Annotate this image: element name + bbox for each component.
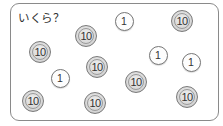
coin-1-yen: 1 <box>149 46 168 65</box>
coin-1-yen: 1 <box>115 12 134 31</box>
question-title: いくら？ <box>18 9 64 25</box>
coin-10-yen: 10 <box>176 86 198 108</box>
coin-value: 10 <box>27 95 38 107</box>
coin-10-yen: 10 <box>84 92 106 114</box>
coin-10-yen: 10 <box>22 90 44 112</box>
coin-value: 1 <box>155 49 161 61</box>
coin-10-yen: 10 <box>75 25 97 47</box>
coin-value: 10 <box>89 97 100 109</box>
coin-10-yen: 10 <box>29 41 51 63</box>
coin-value: 10 <box>80 30 91 42</box>
coin-value: 10 <box>176 15 187 27</box>
coin-10-yen: 10 <box>86 56 108 78</box>
coin-value: 10 <box>130 76 141 88</box>
coin-value: 1 <box>57 72 63 84</box>
coin-value: 1 <box>121 15 127 27</box>
coin-10-yen: 10 <box>125 71 147 93</box>
coin-1-yen: 1 <box>51 69 70 88</box>
coin-value: 10 <box>91 61 102 73</box>
coin-10-yen: 10 <box>171 10 193 32</box>
coin-value: 1 <box>188 56 194 68</box>
coin-value: 10 <box>181 91 192 103</box>
coin-1-yen: 1 <box>182 53 201 72</box>
coin-value: 10 <box>34 46 45 58</box>
